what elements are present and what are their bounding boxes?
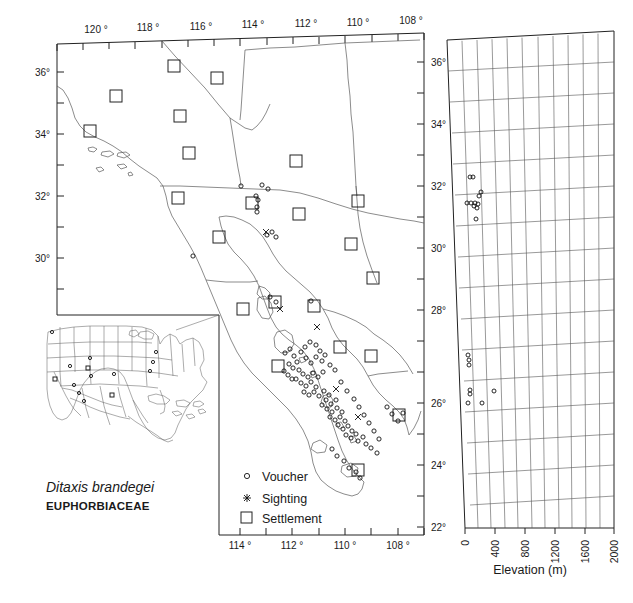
map-legend: Voucher Sighting Settlement — [241, 470, 322, 526]
voucher-marker — [333, 418, 337, 422]
settlement-markers — [84, 60, 405, 476]
lon-label-bottom-110: 110 ° — [334, 540, 357, 551]
voucher-marker — [323, 353, 327, 357]
lat-axis-left-ticks — [57, 72, 64, 289]
lon-label-114: 114 ° — [242, 19, 265, 30]
inset-voucher-marker — [151, 360, 154, 363]
species-name: Ditaxis brandegei — [46, 479, 155, 495]
lat-label-right-36: 36° — [431, 57, 446, 68]
inset-settlement-marker — [110, 393, 114, 397]
elevation-point — [477, 194, 481, 198]
elevation-x-labels: 0 400 800 1200 1600 2000 — [459, 540, 620, 564]
settlement-marker — [110, 90, 122, 102]
voucher-marker — [301, 372, 305, 376]
elevation-point — [467, 363, 471, 367]
voucher-marker — [270, 230, 274, 234]
voucher-marker — [266, 187, 270, 191]
elevation-axis-title: Elevation (m) — [493, 563, 567, 577]
voucher-marker — [346, 424, 350, 428]
lon-axis-bottom-labels: 114 ° 112 ° 110 ° 108 ° — [229, 540, 410, 551]
settlement-marker — [172, 192, 184, 204]
voucher-marker — [302, 390, 306, 394]
lat-label-left-36: 36° — [35, 67, 50, 78]
voucher-marker — [295, 360, 299, 364]
settlement-marker — [237, 303, 249, 315]
lon-label-bottom-114: 114 ° — [229, 540, 252, 551]
lon-axis-bottom-ticks — [240, 528, 424, 535]
voucher-marker — [334, 398, 338, 402]
elevation-point — [474, 217, 478, 221]
voucher-marker — [330, 447, 334, 451]
family-name: EUPHORBIACEAE — [46, 500, 150, 512]
elevation-point — [480, 401, 484, 405]
lat-label-right-26: 26° — [431, 398, 446, 409]
voucher-marker — [303, 345, 307, 349]
lat-label-left-32: 32° — [35, 191, 50, 202]
lon-label-bottom-108: 108 ° — [386, 540, 409, 551]
inset-voucher-marker — [112, 372, 115, 375]
settlement-marker — [365, 350, 377, 362]
inset-map — [47, 315, 219, 442]
lon-axis-top-labels: 120 ° 118 ° 116 ° 114 ° 112 ° 110 ° 108 … — [84, 15, 422, 35]
voucher-marker — [328, 363, 332, 367]
voucher-marker — [320, 359, 324, 363]
voucher-marker — [338, 415, 342, 419]
voucher-marker — [335, 406, 339, 410]
voucher-marker — [316, 375, 320, 379]
lon-label-120: 120 ° — [84, 24, 107, 35]
figure-canvas: 120 ° 118 ° 116 ° 114 ° 112 ° 110 ° 108 … — [0, 0, 633, 603]
voucher-marker — [297, 368, 301, 372]
voucher-marker — [375, 451, 379, 455]
settlement-marker — [352, 195, 364, 207]
settlement-marker — [293, 208, 305, 220]
sighting-marker — [314, 324, 320, 330]
voucher-marker — [347, 466, 351, 470]
settlement-marker — [269, 296, 281, 308]
map-geography — [57, 40, 424, 496]
elevation-point — [466, 353, 470, 357]
elevation-point — [467, 358, 471, 362]
voucher-markers — [191, 183, 405, 480]
map-figure: 120 ° 118 ° 116 ° 114 ° 112 ° 110 ° 108 … — [0, 0, 633, 603]
inset-voucher-marker — [154, 350, 157, 353]
voucher-marker — [314, 355, 318, 359]
voucher-marker — [274, 300, 278, 304]
voucher-marker — [309, 380, 313, 384]
voucher-marker — [287, 362, 291, 366]
voucher-marker — [291, 366, 295, 370]
voucher-marker — [362, 413, 366, 417]
settlement-marker — [168, 60, 180, 72]
elevation-point — [475, 206, 479, 210]
settlement-marker — [174, 110, 186, 122]
voucher-marker — [357, 405, 361, 409]
voucher-marker — [312, 390, 316, 394]
elevation-gridlines-horizontal — [448, 62, 614, 505]
sighting-marker — [277, 306, 283, 312]
voucher-marker — [385, 405, 389, 409]
lon-label-112: 112 ° — [295, 18, 318, 29]
voucher-marker — [304, 384, 308, 388]
lon-label-bottom-112: 112 ° — [281, 540, 304, 551]
voucher-marker — [255, 210, 259, 214]
voucher-marker — [330, 410, 334, 414]
lat-label-right-34: 34° — [431, 119, 446, 130]
voucher-marker — [286, 373, 290, 377]
settlement-marker — [84, 125, 96, 137]
sighting-marker — [355, 414, 361, 420]
elevation-panel: 0 400 800 1200 1600 2000 Elevation (m) — [447, 31, 620, 577]
elevation-data-points — [465, 175, 496, 405]
lat-axis-right-ticks — [417, 62, 424, 527]
lat-label-right-30: 30° — [431, 243, 446, 254]
voucher-marker — [352, 397, 356, 401]
elev-tick-0: 0 — [459, 540, 471, 546]
voucher-marker — [335, 454, 339, 458]
voucher-marker — [345, 389, 349, 393]
voucher-marker — [306, 375, 310, 379]
voucher-marker — [377, 437, 381, 441]
lat-label-right-24: 24° — [431, 460, 446, 471]
legend-settlement-icon — [241, 512, 252, 523]
inset-settlement-marker — [86, 366, 90, 370]
voucher-marker — [314, 385, 318, 389]
elev-tick-800: 800 — [519, 540, 531, 558]
lat-label-left-30: 30° — [35, 253, 50, 264]
